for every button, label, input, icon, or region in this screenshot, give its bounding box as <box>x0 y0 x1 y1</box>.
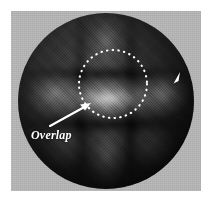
specimen-image <box>11 11 201 191</box>
overlap-annotation-label: Overlap <box>31 128 72 143</box>
sphere-rim-shading <box>18 13 194 189</box>
spherical-specimen <box>18 13 194 189</box>
figure-root: Overlap <box>0 0 211 201</box>
